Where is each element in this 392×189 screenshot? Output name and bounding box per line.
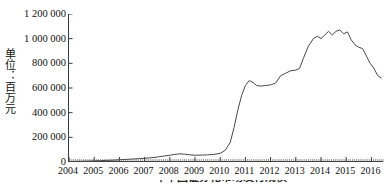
figure-caption-clipped: 年中国证券化市场发行规模: [0, 180, 392, 189]
x-tick-label: 2009: [184, 165, 204, 176]
figure-caption-text: 年中国证券化市场发行规模: [155, 180, 287, 184]
x-tick-label: 2016: [360, 165, 380, 176]
x-tick-label: 2006: [108, 165, 128, 176]
y-axis-tick-marks: [69, 14, 73, 137]
x-tick-label: 2010: [209, 165, 229, 176]
y-axis-tick-labels: 1 200 0001 000 000800 000600 000400 0002…: [14, 0, 66, 189]
x-axis-major-ticks: [69, 157, 371, 162]
x-tick-label: 2015: [335, 165, 355, 176]
y-tick-label: 800 000: [14, 58, 66, 69]
data-series-line: [69, 30, 381, 161]
y-tick-label: 400 000: [14, 108, 66, 119]
x-tick-label: 2014: [310, 165, 330, 176]
y-tick-label: 200 000: [14, 132, 66, 143]
plot-area: [68, 14, 383, 162]
x-tick-label: 2011: [235, 165, 255, 176]
y-tick-label: 600 000: [14, 83, 66, 94]
x-tick-label: 2007: [134, 165, 154, 176]
x-tick-label: 2008: [159, 165, 179, 176]
x-axis-minor-ticks: [69, 159, 384, 162]
y-tick-label: 1 000 000: [14, 34, 66, 45]
x-tick-label: 2012: [260, 165, 280, 176]
series-line-chart: [69, 14, 384, 162]
y-tick-label: 1 200 000: [14, 9, 66, 20]
chart-figure: 单位：百万元 1 200 0001 000 000800 000600 0004…: [0, 0, 392, 189]
x-tick-label: 2004: [58, 165, 78, 176]
x-axis-tick-labels: 2004200520062007200820092010201120122013…: [68, 165, 383, 179]
x-tick-label: 2013: [285, 165, 305, 176]
x-tick-label: 2005: [83, 165, 103, 176]
